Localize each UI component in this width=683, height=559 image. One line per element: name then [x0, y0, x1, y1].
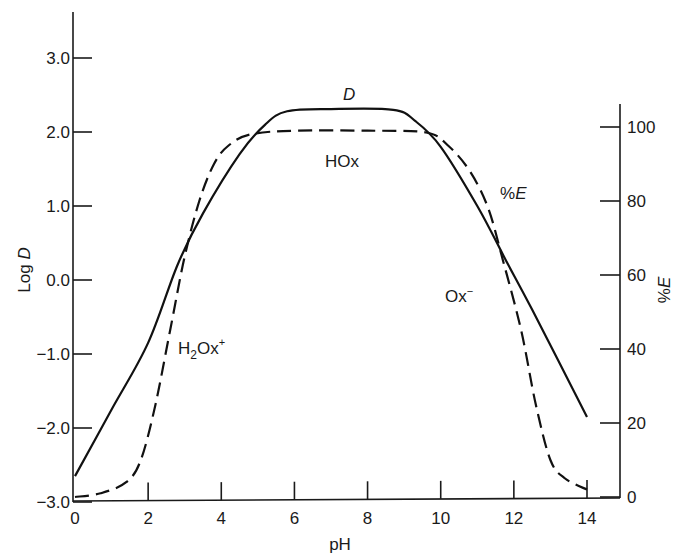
annotation-h2ox-h: H — [178, 339, 190, 358]
x-tick-label: 10 — [431, 509, 450, 528]
left-tick-label: 2.0 — [46, 123, 70, 142]
annotation-ox-base: Ox — [445, 287, 467, 306]
right-tick-label: 0 — [627, 488, 636, 507]
x-tick-label: 6 — [290, 509, 299, 528]
left-tick-label: 1.0 — [46, 197, 70, 216]
left-y-axis-title-prefix: Log — [15, 260, 34, 293]
right-tick-label: 60 — [627, 266, 646, 285]
left-tick-label: −3.0 — [36, 493, 70, 512]
right-y-ticks: 100806040200 — [600, 118, 655, 507]
annotation-hox: HOx — [325, 152, 360, 171]
x-tick-label: 0 — [70, 509, 79, 528]
left-tick-label: −1.0 — [36, 345, 70, 364]
annotation-percent-e-var: E — [515, 184, 527, 203]
annotation-ox-sup: − — [467, 285, 473, 297]
x-tick-label: 2 — [143, 509, 152, 528]
right-tick-label: 40 — [627, 340, 646, 359]
left-tick-label: 0.0 — [46, 271, 70, 290]
right-tick-label: 80 — [627, 192, 646, 211]
x-axis — [73, 498, 620, 501]
left-tick-label: −2.0 — [36, 419, 70, 438]
x-tick-label: 4 — [217, 509, 226, 528]
annotation-h2ox-sup: + — [219, 336, 225, 348]
x-tick-label: 14 — [578, 509, 597, 528]
chart-canvas: 3.02.01.00.0−1.0−2.0−3.0 100806040200 02… — [0, 0, 683, 559]
right-y-axis-title-var: E — [655, 276, 674, 288]
annotation-d: D — [343, 85, 355, 104]
annotation-percent-e: %E — [500, 184, 527, 203]
x-tick-label: 12 — [504, 509, 523, 528]
right-y-axis-title: %E — [655, 276, 674, 303]
right-y-axis-title-pct: % — [655, 288, 674, 303]
right-tick-label: 20 — [627, 414, 646, 433]
left-tick-label: 3.0 — [46, 49, 70, 68]
annotation-percent-e-pct: % — [500, 184, 515, 203]
left-y-ticks: 3.02.01.00.0−1.0−2.0−3.0 — [36, 49, 92, 512]
x-ticks: 02468101214 — [70, 480, 596, 528]
x-axis-title: pH — [329, 535, 351, 554]
annotation-ox-minus: Ox− — [445, 285, 473, 306]
left-y-axis-title: Log D — [15, 247, 34, 292]
annotation-h2ox-plus: H2Ox+ — [178, 336, 225, 362]
left-y-axis-title-var: D — [15, 247, 34, 259]
annotation-h2ox-rest: Ox — [197, 339, 219, 358]
x-tick-label: 8 — [363, 509, 372, 528]
right-tick-label: 100 — [627, 118, 655, 137]
